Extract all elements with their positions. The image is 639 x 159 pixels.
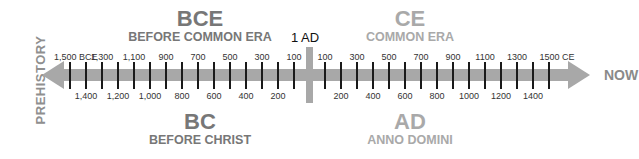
ce-tick xyxy=(340,62,342,89)
bce-tick xyxy=(277,62,279,89)
bce-subtitle: BEFORE COMMON ERA xyxy=(90,30,310,44)
bce-title: BCE xyxy=(100,8,300,30)
ce-tick xyxy=(436,62,438,89)
bce-tick xyxy=(229,62,231,89)
ce-tick xyxy=(388,62,390,89)
ce-tick xyxy=(532,62,534,89)
bc-subtitle: BEFORE CHRIST xyxy=(90,133,310,147)
bce-tick xyxy=(293,62,295,89)
ce-tick xyxy=(372,62,374,89)
ce-tick xyxy=(484,62,486,89)
bce-tick xyxy=(133,62,135,89)
ce-tick-label: 1300 xyxy=(497,52,537,62)
ce-tick xyxy=(356,62,358,89)
bce-tick xyxy=(85,62,87,89)
ce-tick xyxy=(452,62,454,89)
bce-tick xyxy=(69,62,71,89)
bce-tick xyxy=(165,62,167,89)
ad-subtitle: ANNO DOMINI xyxy=(300,133,520,147)
bce-tick xyxy=(181,62,183,89)
now-label: NOW xyxy=(604,67,638,83)
bce-tick xyxy=(101,62,103,89)
ce-tick-label: 1500 CE xyxy=(537,52,577,62)
ce-tick xyxy=(548,62,550,89)
one-ad-label: 1 AD xyxy=(291,30,319,45)
ad-title: AD xyxy=(310,111,510,133)
bce-tick xyxy=(149,62,151,89)
ce-tick xyxy=(500,62,502,89)
timeline-shaft xyxy=(60,69,570,81)
bc-title: BC xyxy=(100,111,300,133)
ce-subtitle: COMMON ERA xyxy=(300,30,520,44)
ce-tick-label: 1400 xyxy=(513,91,553,101)
ce-title: CE xyxy=(310,8,510,30)
ce-tick xyxy=(516,62,518,89)
bce-tick xyxy=(213,62,215,89)
ce-tick xyxy=(324,62,326,89)
bce-tick xyxy=(197,62,199,89)
bce-tick-label: 200 xyxy=(258,91,298,101)
ce-tick xyxy=(420,62,422,89)
bce-tick xyxy=(117,62,119,89)
bce-tick xyxy=(245,62,247,89)
bce-tick xyxy=(261,62,263,89)
arrow-right-icon xyxy=(568,61,590,89)
ce-tick xyxy=(404,62,406,89)
ce-tick xyxy=(468,62,470,89)
